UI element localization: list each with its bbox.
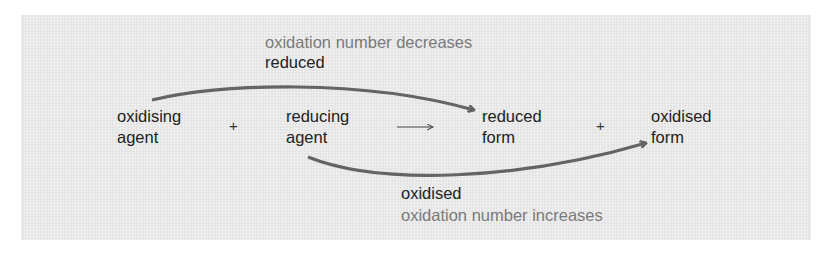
plus-sign-1: + — [229, 117, 238, 134]
reactant1-line1: oxidising — [117, 106, 181, 127]
reactant2-line1: reducing — [286, 106, 349, 127]
plus-sign-2: + — [596, 117, 605, 134]
product2-line2: form — [651, 127, 684, 148]
oxidised-label: oxidised — [401, 183, 462, 204]
product1-line1: reduced — [482, 106, 542, 127]
reduced-label: reduced — [265, 52, 325, 73]
product1-line2: form — [482, 127, 515, 148]
reactant2-line2: agent — [286, 127, 327, 148]
oxidation-number-increases-caption: oxidation number increases — [401, 205, 603, 226]
product2-line1: oxidised — [651, 106, 712, 127]
oxidation-number-decreases-caption: oxidation number decreases — [265, 32, 472, 53]
oxidation-arrow-icon — [308, 143, 646, 175]
reactant1-line2: agent — [117, 127, 158, 148]
